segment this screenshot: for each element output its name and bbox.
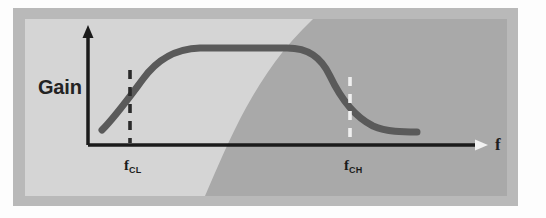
y-axis-label: Gain xyxy=(38,76,82,99)
figure-container: Gain f fCL fCH xyxy=(0,0,546,218)
tick-label-fch-subscript: CH xyxy=(349,165,363,175)
y-axis-arrowhead xyxy=(83,25,94,38)
x-axis-arrowhead xyxy=(475,140,488,151)
tick-label-fch: fCH xyxy=(344,157,363,175)
plot-drawing xyxy=(25,19,507,196)
tick-label-fcl: fCL xyxy=(124,157,142,175)
tick-label-fcl-subscript: CL xyxy=(129,165,142,175)
gain-curve xyxy=(102,48,417,132)
x-axis-label: f xyxy=(495,135,501,155)
